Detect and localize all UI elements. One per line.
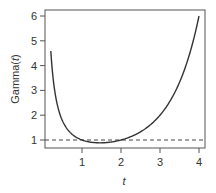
x-tick-label: 2 bbox=[118, 156, 124, 168]
y-tick-label: 3 bbox=[31, 84, 37, 96]
y-tick-label: 2 bbox=[31, 109, 37, 121]
y-tick-label: 6 bbox=[31, 10, 37, 22]
x-tick-label: 3 bbox=[157, 156, 163, 168]
y-axis-label: Gamma(t) bbox=[9, 54, 21, 104]
x-axis: 1234 bbox=[79, 148, 202, 168]
gamma-curve bbox=[51, 16, 199, 143]
y-tick-label: 1 bbox=[31, 134, 37, 146]
x-tick-label: 1 bbox=[79, 156, 85, 168]
x-tick-label: 4 bbox=[196, 156, 202, 168]
y-tick-label: 5 bbox=[31, 35, 37, 47]
gamma-chart: 123456 1234 Gamma(t) t bbox=[0, 0, 216, 193]
y-tick-label: 4 bbox=[31, 60, 37, 72]
y-axis: 123456 bbox=[31, 10, 45, 146]
x-axis-label: t bbox=[122, 175, 126, 187]
